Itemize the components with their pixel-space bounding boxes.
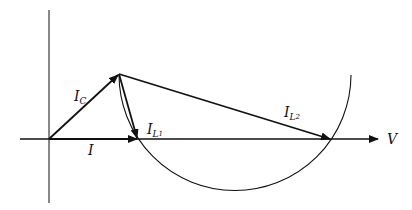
phasor-IC [49,75,118,139]
label-IC-sub: C [80,96,87,106]
label-IL2: IL2 [284,105,300,122]
label-I: I [88,143,94,157]
phasor-diagram: V I IC IL1 IL2 [0,0,412,210]
label-IC: IC [74,89,86,106]
label-IL1-subsub: 1 [159,130,163,138]
diagram-canvas [0,0,412,210]
label-IL2-subsub: 2 [296,113,300,121]
label-V: V [387,132,397,146]
phasor-IL1 [119,74,137,138]
label-IL1: IL1 [147,122,163,139]
